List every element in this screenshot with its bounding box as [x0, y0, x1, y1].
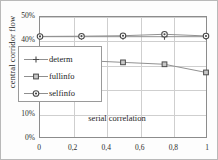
x-axis-tick-label: 0,4 [94, 144, 118, 152]
y-axis-tick-label: 10% [1, 110, 35, 118]
plus-marker [33, 57, 39, 63]
legend-item-selfinfo: selfinfo [19, 85, 101, 102]
legend-marker [23, 51, 49, 68]
y-axis-tick-label: 50% [1, 12, 35, 20]
x-axis-tick-label: 1 [195, 144, 218, 152]
x-axis-tick-label: 0 [27, 144, 51, 152]
square-marker [162, 62, 167, 67]
circle-marker-center [39, 35, 41, 37]
x-axis-tick-label: 0,8 [161, 144, 185, 152]
y-axis-tick-label: 0% [1, 134, 35, 142]
legend-marker [23, 68, 49, 85]
x-axis-title: serial correlation [47, 113, 187, 123]
chart-figure: central corridor flow 50%40%30%20%10%0% … [0, 0, 218, 160]
legend-marker [23, 85, 49, 102]
x-axis-tick-label: 0,6 [128, 144, 152, 152]
legend-label: fullinfo [49, 71, 75, 82]
y-axis-tick-label: 40% [1, 36, 35, 44]
circle-marker-center [35, 92, 37, 94]
circle-marker-center [163, 33, 165, 35]
x-axis-tick-label: 0,2 [61, 144, 85, 152]
square-marker [204, 70, 209, 75]
legend-label: selfinfo [49, 88, 75, 99]
circle-marker-center [80, 35, 82, 37]
series-selfinfo [37, 32, 209, 40]
circle-marker-center [205, 35, 207, 37]
chart-legend: determfullinfoselfinfo [18, 46, 102, 102]
square-marker [34, 74, 39, 79]
legend-item-determ: determ [19, 51, 101, 68]
square-marker [121, 60, 126, 65]
circle-marker-center [122, 35, 124, 37]
legend-item-fullinfo: fullinfo [19, 68, 101, 85]
legend-label: determ [49, 54, 73, 65]
